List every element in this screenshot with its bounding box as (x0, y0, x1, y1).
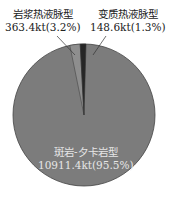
label-metamorphic-name: 变质热液脉型 (90, 8, 166, 21)
label-magmatic-value: 363.4kt(3.2%) (5, 21, 81, 34)
label-porphyry: 斑岩-夕卡岩型 10911.4kt(95.5%) (38, 146, 134, 172)
label-metamorphic-value: 148.6kt(1.3%) (90, 21, 166, 34)
label-porphyry-value: 10911.4kt(95.5%) (38, 159, 134, 172)
label-magmatic-name: 岩浆热液脉型 (5, 8, 81, 21)
label-metamorphic: 变质热液脉型 148.6kt(1.3%) (90, 8, 166, 34)
label-magmatic: 岩浆热液脉型 363.4kt(3.2%) (5, 8, 81, 34)
label-porphyry-name: 斑岩-夕卡岩型 (38, 146, 134, 159)
